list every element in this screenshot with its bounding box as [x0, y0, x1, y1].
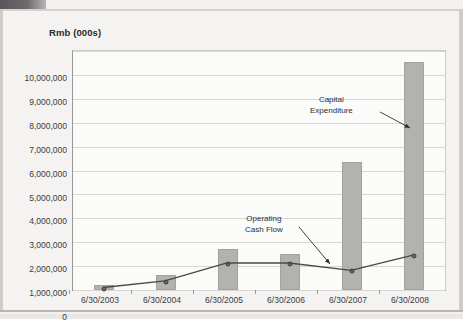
page-edge-bottom-shadow [0, 314, 463, 319]
plot-area [72, 50, 446, 291]
x-axis-tick [69, 290, 70, 294]
y-tick-label: 2,000,000 [29, 264, 67, 274]
y-axis-labels: 10,000,0009,000,0008,000,0007,000,0006,0… [3, 50, 67, 289]
y-tick-label: 9,000,000 [29, 97, 67, 107]
x-tick-label: 6/30/2003 [81, 295, 119, 305]
line-marker [226, 261, 231, 266]
x-tick-label: 6/30/2007 [329, 295, 367, 305]
x-axis-tick [255, 290, 256, 294]
gridline [73, 123, 445, 124]
x-axis-tick [131, 290, 132, 294]
gridline [73, 290, 445, 291]
x-axis-tick [379, 290, 380, 294]
y-tick-label: 6,000,000 [29, 169, 67, 179]
gridline [73, 242, 445, 243]
x-axis-tick [193, 290, 194, 294]
y-tick-label: 1,000,000 [29, 288, 67, 298]
gridline [73, 171, 445, 172]
gridline [73, 99, 445, 100]
x-tick-label: 6/30/2005 [205, 295, 243, 305]
line-marker [350, 269, 355, 274]
y-tick-label: 5,000,000 [29, 193, 67, 203]
gridline [73, 51, 445, 52]
annotation-capital-expenditure: CapitalExpenditure [310, 95, 353, 116]
y-tick-label: 0 [62, 312, 67, 322]
scan-artifact [0, 0, 46, 9]
annotation-line: Operating [245, 214, 283, 225]
page-edge-bottom [0, 310, 463, 312]
chart-surface: Rmb (000s) 10,000,0009,000,0008,000,0007… [3, 11, 459, 310]
line-marker [412, 254, 417, 259]
annotation-operating-cash-flow: OperatingCash Flow [245, 214, 283, 235]
y-tick-label: 10,000,000 [24, 73, 67, 83]
gridline [73, 75, 445, 76]
gridline [73, 194, 445, 195]
x-axis-tick [317, 290, 318, 294]
annotation-line: Expenditure [310, 106, 353, 117]
annotation-line: Capital [310, 95, 353, 106]
y-tick-label: 8,000,000 [29, 121, 67, 131]
gridline [73, 266, 445, 267]
x-tick-label: 6/30/2008 [391, 295, 429, 305]
y-tick-label: 7,000,000 [29, 145, 67, 155]
line-marker [164, 279, 169, 284]
y-tick-label: 4,000,000 [29, 216, 67, 226]
page-edge-right [459, 9, 463, 312]
y-tick-label: 3,000,000 [29, 240, 67, 250]
bar [280, 254, 300, 290]
chart-title: Rmb (000s) [49, 27, 101, 38]
gridline [73, 147, 445, 148]
annotation-line: Cash Flow [245, 225, 283, 236]
line-marker [102, 286, 107, 291]
bar [218, 249, 238, 290]
x-tick-label: 6/30/2004 [143, 295, 181, 305]
line-marker [288, 261, 293, 266]
x-tick-label: 6/30/2006 [267, 295, 305, 305]
